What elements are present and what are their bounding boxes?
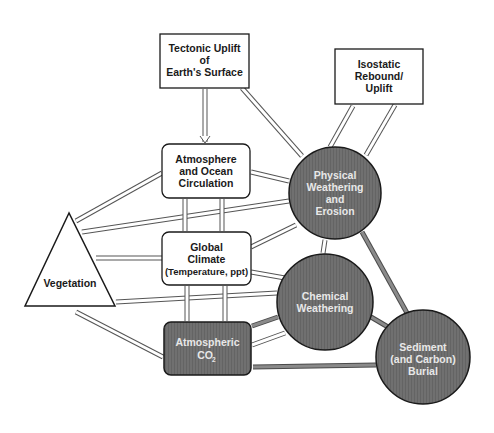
node-atmosphere-ocean-circulation: Atmosphere and Ocean Circulation — [162, 144, 250, 198]
arrow-atmosphere-to-vegetation — [76, 173, 162, 221]
co2-label-line1: Atmospheric — [175, 336, 239, 348]
physical-label-line2: Weathering — [307, 181, 364, 193]
sediment-label-line1: Sediment — [399, 341, 447, 353]
sediment-label-line2: (and Carbon) — [390, 353, 455, 365]
node-tectonic-uplift: Tectonic Uplift of Earth's Surface — [160, 34, 249, 88]
node-global-climate: Global Climate (Temperature, ppt) — [162, 232, 251, 285]
chemical-label-line1: Chemical — [302, 290, 349, 302]
arrow-climate-to-chemical — [251, 272, 285, 278]
isostatic-label-line1: Isostatic — [358, 58, 401, 70]
atmosphere-label-line3: Circulation — [179, 177, 234, 189]
arrow-climate-to-physical — [251, 225, 296, 247]
arrow-co2-to-chemical — [252, 333, 285, 345]
atmosphere-label-line1: Atmosphere — [175, 153, 236, 165]
arrow-vegetation-to-chemical — [116, 293, 277, 302]
node-isostatic-rebound: Isostatic Rebound/ Uplift — [335, 49, 423, 104]
link-chemical-to-co2-inner — [252, 317, 278, 326]
sediment-label-line3: Burial — [408, 365, 438, 377]
node-physical-weathering: Physical Weathering and Erosion — [289, 147, 381, 239]
link-chemical-to-sediment-inner — [371, 317, 388, 327]
arrow-tectonic-to-physical — [242, 88, 302, 156]
co2-subscript: 2 — [212, 356, 216, 363]
climate-system-diagram: Tectonic Uplift of Earth's Surface Isost… — [0, 0, 494, 433]
atmosphere-label-line2: and Ocean — [179, 165, 233, 177]
tectonic-label-line1: Tectonic Uplift — [168, 42, 241, 54]
climate-label-line2: Climate — [188, 253, 226, 265]
arrow-physical-to-chemical — [323, 240, 325, 253]
isostatic-label-line2: Rebound/ — [355, 70, 403, 82]
arrow-co2-to-vegetation — [76, 312, 163, 357]
physical-label-line3: and — [326, 193, 345, 205]
chemical-label-line2: Weathering — [297, 302, 354, 314]
tectonic-label-line3: Earth's Surface — [166, 66, 243, 78]
arrow-isostatic-to-physical — [366, 105, 395, 155]
climate-label-line3: (Temperature, ppt) — [165, 266, 248, 277]
node-chemical-weathering: Chemical Weathering — [277, 254, 373, 350]
arrow-physical-to-isostatic — [330, 106, 353, 147]
arrow-tectonic-to-atmosphere — [200, 89, 210, 143]
climate-label-line1: Global — [190, 241, 223, 253]
physical-label-line4: Erosion — [315, 205, 354, 217]
co2-label-line2: CO — [197, 349, 213, 361]
link-sediment-to-co2-inner — [253, 365, 376, 367]
vegetation-label: Vegetation — [43, 277, 96, 289]
node-atmospheric-co2: Atmospheric CO 2 — [164, 322, 251, 375]
arrow-atmosphere-to-physical — [251, 172, 289, 181]
node-sediment-burial: Sediment (and Carbon) Burial — [376, 310, 470, 404]
isostatic-label-line3: Uplift — [366, 82, 393, 94]
tectonic-label-line2: of — [200, 54, 210, 66]
physical-label-line1: Physical — [314, 169, 357, 181]
